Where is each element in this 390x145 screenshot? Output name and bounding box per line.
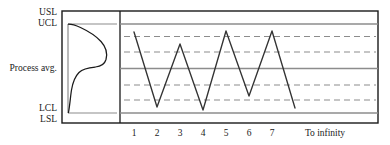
x-tick-2: 2	[155, 128, 160, 138]
x-axis-labels: 1 2 3 4 5 6 7 To infinity	[132, 128, 346, 138]
x-axis-tail-label: To infinity	[305, 128, 345, 138]
spec-limit-frame	[62, 11, 378, 123]
label-process-avg: Process avg.	[10, 63, 58, 73]
run-chart-series	[134, 31, 295, 110]
zone-lines	[120, 24, 378, 113]
normal-distribution-curve	[69, 24, 107, 112]
label-lcl: LCL	[39, 103, 57, 113]
control-chart-svg: USL UCL Process avg. LCL LSL	[0, 0, 390, 145]
label-usl: USL	[39, 7, 57, 17]
x-tick-5: 5	[224, 128, 229, 138]
x-tick-1: 1	[132, 128, 137, 138]
x-tick-7: 7	[270, 128, 275, 138]
label-ucl: UCL	[38, 18, 57, 28]
label-lsl: LSL	[40, 114, 57, 124]
x-tick-4: 4	[201, 128, 206, 138]
distribution-panel	[68, 24, 117, 113]
figure-canvas: USL UCL Process avg. LCL LSL	[0, 0, 390, 145]
x-tick-6: 6	[247, 128, 252, 138]
x-tick-3: 3	[178, 128, 183, 138]
